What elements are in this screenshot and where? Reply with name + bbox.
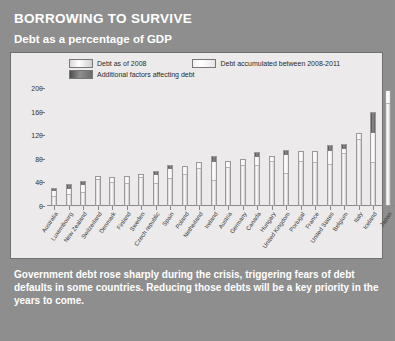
bar-group[interactable] <box>294 88 309 206</box>
bar-segment-1 <box>52 197 56 205</box>
bar-group[interactable] <box>76 88 91 206</box>
stacked-bar[interactable] <box>109 177 115 206</box>
x-axis-label: Spain <box>161 211 175 227</box>
bar-segment-2 <box>371 133 375 162</box>
bar-segment-2 <box>183 167 187 175</box>
debt-accumulated-swatch-icon <box>192 59 216 68</box>
x-axis-label-cell: Netherland <box>192 210 207 256</box>
bar-segment-1 <box>125 184 129 205</box>
bar-group[interactable] <box>163 88 178 206</box>
bar-segment-1 <box>241 166 245 205</box>
stacked-bar[interactable] <box>196 162 202 206</box>
legend-item-additional-factors: Additional factors affecting debt <box>69 70 195 79</box>
bar-group[interactable] <box>149 88 164 206</box>
y-axis-tick-mark <box>40 112 45 113</box>
x-axis-label-cell: Italy <box>352 210 367 256</box>
stacked-bar[interactable] <box>254 152 260 206</box>
y-axis-tick-label: 160 <box>15 108 43 115</box>
bar-group[interactable] <box>134 88 149 206</box>
bar-segment-1 <box>67 195 71 205</box>
bar-group[interactable] <box>120 88 135 206</box>
x-axis-labels: AustraliaLuxembourgNew ZealandSwitzerlan… <box>47 210 395 256</box>
stacked-bar[interactable] <box>356 133 362 206</box>
stacked-bar[interactable] <box>240 159 246 206</box>
stacked-bar[interactable] <box>312 151 318 206</box>
y-axis-tick-label: 120 <box>15 132 43 139</box>
x-axis-label: Japan <box>378 211 392 228</box>
bar-segment-1 <box>139 178 143 205</box>
bar-segment-1 <box>154 184 158 205</box>
x-axis-label-cell: Czech republic <box>149 210 164 256</box>
bar-segment-2 <box>81 185 85 193</box>
legend-item-debt-2008: Debt as of 2008 <box>69 59 146 68</box>
y-axis-tick-mark <box>40 206 45 207</box>
x-axis-label-cell: Spain <box>163 210 178 256</box>
bar-group[interactable] <box>207 88 222 206</box>
stacked-bar[interactable] <box>283 150 289 206</box>
x-axis-label-cell: Canada <box>250 210 265 256</box>
legend-row-2: Additional factors affecting debt <box>11 69 382 80</box>
x-axis-label: Ireland <box>203 211 218 229</box>
bar-group[interactable] <box>47 88 62 206</box>
stacked-bar[interactable] <box>95 176 101 206</box>
bar-group[interactable] <box>352 88 367 206</box>
stacked-bar[interactable] <box>51 188 57 206</box>
chart-legend: Debt as of 2008 Debt accumulated between… <box>11 58 382 80</box>
bar-group[interactable] <box>62 88 77 206</box>
legend-item-debt-accumulated: Debt accumulated between 2008-2011 <box>192 59 340 68</box>
bar-segment-1 <box>212 181 216 205</box>
bar-segment-1 <box>168 179 172 205</box>
stacked-bar[interactable] <box>124 176 130 206</box>
bar-group[interactable] <box>337 88 352 206</box>
x-axis-label-cell: Denmark <box>105 210 120 256</box>
stacked-bar[interactable] <box>182 166 188 206</box>
y-axis-tick-mark <box>40 182 45 183</box>
x-axis-label-cell: Japan <box>381 210 395 256</box>
stacked-bar[interactable] <box>80 181 86 206</box>
bar-segment-1 <box>96 180 100 205</box>
bar-group[interactable] <box>366 88 381 206</box>
bar-group[interactable] <box>265 88 280 206</box>
bar-segment-1 <box>313 163 317 205</box>
bar-segment-2 <box>313 152 317 163</box>
stacked-bar[interactable] <box>385 90 391 206</box>
bar-segment-3 <box>371 113 375 134</box>
stacked-bar[interactable] <box>138 174 144 206</box>
bar-segment-1 <box>342 154 346 205</box>
x-axis-label-cell: United States <box>323 210 338 256</box>
bar-segment-2 <box>154 175 158 184</box>
bar-group[interactable] <box>91 88 106 206</box>
bar-group[interactable] <box>236 88 251 206</box>
bar-segment-2 <box>168 169 172 180</box>
bar-segment-2 <box>386 91 390 105</box>
bar-group[interactable] <box>250 88 265 206</box>
stacked-bar[interactable] <box>211 156 217 206</box>
bar-segment-2 <box>284 155 288 174</box>
bar-group[interactable] <box>192 88 207 206</box>
bar-group[interactable] <box>221 88 236 206</box>
bar-group[interactable] <box>323 88 338 206</box>
stacked-bar[interactable] <box>341 144 347 206</box>
page-title: BORROWING TO SURVIVE <box>14 11 383 26</box>
bar-group[interactable] <box>178 88 193 206</box>
stacked-bar[interactable] <box>269 156 275 206</box>
stacked-bar[interactable] <box>370 112 376 206</box>
stacked-bar[interactable] <box>167 165 173 206</box>
stacked-bar[interactable] <box>225 161 231 206</box>
stacked-bar[interactable] <box>153 171 159 206</box>
additional-factors-swatch-icon <box>69 70 93 79</box>
stacked-bar[interactable] <box>66 184 72 206</box>
legend-label-debt-2008: Debt as of 2008 <box>97 60 146 67</box>
bar-group[interactable] <box>308 88 323 206</box>
x-axis-label-cell: Finland <box>120 210 135 256</box>
stacked-bar[interactable] <box>327 145 333 206</box>
y-axis-tick-label: 0 <box>15 203 43 210</box>
bar-group[interactable] <box>105 88 120 206</box>
bar-group[interactable] <box>381 88 395 206</box>
stacked-bar[interactable] <box>298 151 304 206</box>
bar-group[interactable] <box>279 88 294 206</box>
bar-segment-1 <box>371 163 375 205</box>
x-axis-label-cell: Portugal <box>294 210 309 256</box>
x-axis-label-cell: Ireland <box>207 210 222 256</box>
